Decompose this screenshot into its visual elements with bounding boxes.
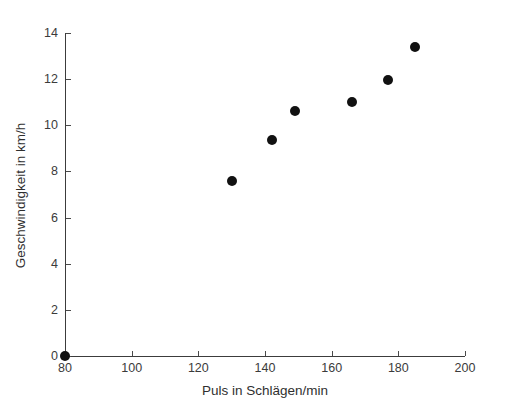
y-tick-mark <box>66 264 71 265</box>
y-axis-title: Geschwindigkeit in km/h <box>12 33 30 357</box>
x-tick-label: 200 <box>455 362 476 375</box>
data-point <box>60 351 70 361</box>
y-tick-mark <box>66 33 71 34</box>
x-tick-label: 120 <box>188 362 209 375</box>
y-axis-title-text: Geschwindigkeit in km/h <box>14 122 29 268</box>
data-point <box>290 106 300 116</box>
data-point <box>227 176 237 186</box>
y-tick-mark <box>66 171 71 172</box>
x-tick-label: 80 <box>58 362 72 375</box>
x-tick-mark <box>265 351 266 356</box>
x-tick-label: 140 <box>255 362 276 375</box>
x-tick-label: 100 <box>121 362 142 375</box>
x-tick-mark <box>198 351 199 356</box>
data-point <box>410 42 420 52</box>
x-axis-title: Puls in Schlägen/min <box>65 383 465 398</box>
x-tick-mark <box>332 351 333 356</box>
x-tick-label: 180 <box>388 362 409 375</box>
data-point <box>267 135 277 145</box>
x-tick-mark <box>465 351 466 356</box>
x-tick-mark <box>398 351 399 356</box>
y-tick-mark <box>66 125 71 126</box>
chart-screenshot: 80100120140160180200 02468101214 Puls in… <box>0 0 507 416</box>
x-tick-label: 160 <box>321 362 342 375</box>
y-tick-mark <box>66 79 71 80</box>
scatter-plot: 80100120140160180200 02468101214 Puls in… <box>0 0 507 416</box>
data-point <box>383 75 393 85</box>
y-tick-mark <box>66 310 71 311</box>
x-tick-mark <box>132 351 133 356</box>
data-point <box>347 97 357 107</box>
y-axis-line <box>65 33 66 357</box>
x-axis-line <box>65 356 465 357</box>
y-tick-mark <box>66 218 71 219</box>
